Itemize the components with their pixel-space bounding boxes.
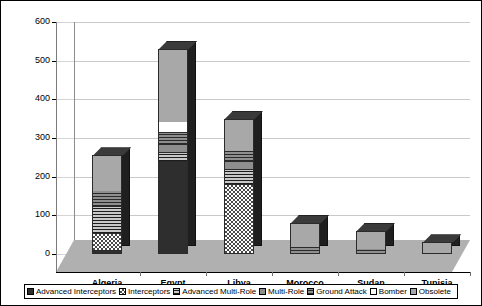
legend-item-2[interactable]: Advanced Multi-Role <box>173 287 256 296</box>
bar-segment <box>225 185 253 254</box>
legend-swatch-icon <box>259 288 266 295</box>
x-tick-mark <box>470 272 471 276</box>
y-tick-label: 600 <box>16 17 50 26</box>
legend-label: Advanced Interceptors <box>36 287 116 296</box>
legend-swatch-icon <box>307 288 314 295</box>
bar-segment <box>291 224 319 247</box>
legend-label: Bomber <box>379 287 407 296</box>
bar-segment <box>93 251 121 254</box>
bar-segment <box>225 120 253 151</box>
bar-egypt[interactable] <box>158 8 188 254</box>
y-tick-mark <box>52 138 56 139</box>
y-tick-label: 500 <box>16 56 50 65</box>
plot-area: 0100200300400500600 AlgeriaEgyptLibyaMor… <box>28 8 474 270</box>
legend-swatch-icon <box>410 288 417 295</box>
chart-figure: 0100200300400500600 AlgeriaEgyptLibyaMor… <box>0 0 482 306</box>
x-tick-mark <box>272 272 273 276</box>
y-tick-mark <box>52 215 56 216</box>
gridline-depth <box>56 138 74 139</box>
legend-item-0[interactable]: Advanced Interceptors <box>27 287 116 296</box>
legend-label: Ground Attack <box>316 287 367 296</box>
bar-segment <box>423 243 451 254</box>
bar-segment <box>225 170 253 185</box>
y-tick-label: 300 <box>16 133 50 142</box>
bar-front-face <box>224 119 254 254</box>
bar-front-face <box>158 49 188 254</box>
bar-front-face <box>290 223 320 254</box>
gridline-depth <box>56 61 74 62</box>
bar-segment <box>159 50 187 122</box>
x-tick-mark <box>206 272 207 276</box>
bar-morocco[interactable] <box>290 8 320 254</box>
y-tick-mark <box>52 99 56 100</box>
bar-segment <box>159 162 187 254</box>
gridline-depth <box>56 99 74 100</box>
x-tick-mark <box>140 272 141 276</box>
gridline-depth <box>56 215 74 216</box>
legend-item-6[interactable]: Obsolete <box>410 287 451 296</box>
y-tick-label: 0 <box>16 249 50 258</box>
bar-segment <box>357 232 385 249</box>
legend-label: Advanced Multi-Role <box>182 287 256 296</box>
y-tick-mark <box>52 61 56 62</box>
legend-label: Obsolete <box>419 287 451 296</box>
bar-front-face <box>92 155 122 254</box>
bar-side-face <box>187 41 196 246</box>
legend-swatch-icon <box>27 288 34 295</box>
bar-segment <box>93 207 121 234</box>
y-tick-mark <box>52 177 56 178</box>
y-tick-mark <box>52 22 56 23</box>
bar-tunisia[interactable] <box>422 8 452 254</box>
legend-item-4[interactable]: Ground Attack <box>307 287 367 296</box>
bar-segment <box>225 162 253 170</box>
bar-segment <box>93 156 121 191</box>
bar-segment <box>159 153 187 163</box>
gridline <box>74 177 470 178</box>
legend-swatch-icon <box>370 288 377 295</box>
legend-item-5[interactable]: Bomber <box>370 287 407 296</box>
bar-segment <box>357 249 385 254</box>
y-tick-mark <box>52 254 56 255</box>
gridline <box>74 138 470 139</box>
bar-segment <box>225 151 253 163</box>
y-axis-front-edge <box>74 22 75 240</box>
bar-algeria[interactable] <box>92 8 122 254</box>
chart-legend: Advanced InterceptorsInterceptorsAdvance… <box>24 284 458 299</box>
legend-label: Interceptors <box>128 287 170 296</box>
legend-label: Multi-Role <box>268 287 304 296</box>
bar-segment <box>93 234 121 251</box>
bar-segment <box>291 247 319 254</box>
legend-item-3[interactable]: Multi-Role <box>259 287 304 296</box>
bar-segment <box>159 122 187 134</box>
bar-front-face <box>356 231 386 254</box>
gridline <box>74 22 470 23</box>
bar-segment <box>159 145 187 153</box>
legend-swatch-icon <box>119 288 126 295</box>
bar-side-face <box>121 147 130 246</box>
y-tick-label: 100 <box>16 210 50 219</box>
gridline-depth <box>56 177 74 178</box>
y-tick-label: 200 <box>16 172 50 181</box>
bar-segment <box>159 133 187 145</box>
gridline <box>74 99 470 100</box>
x-axis-line <box>56 272 470 273</box>
legend-swatch-icon <box>173 288 180 295</box>
bar-segment <box>93 191 121 206</box>
x-tick-mark <box>404 272 405 276</box>
gridline-depth <box>56 22 74 23</box>
legend-item-1[interactable]: Interceptors <box>119 287 170 296</box>
bar-sudan[interactable] <box>356 8 386 254</box>
gridline <box>74 215 470 216</box>
y-axis-line <box>56 22 57 272</box>
x-tick-mark <box>338 272 339 276</box>
y-tick-label: 400 <box>16 94 50 103</box>
bar-side-face <box>253 111 262 246</box>
bar-libya[interactable] <box>224 8 254 254</box>
bar-front-face <box>422 242 452 254</box>
gridline <box>74 61 470 62</box>
